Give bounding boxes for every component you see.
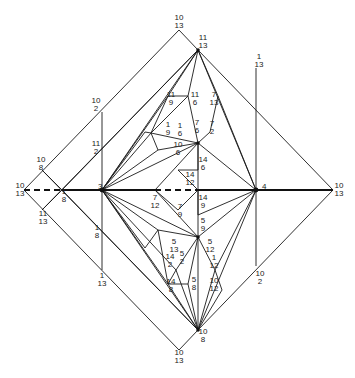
fraction-label: 116 (191, 90, 200, 107)
edge-line (42, 50, 198, 210)
fraction-denominator: 6 (176, 148, 181, 157)
fraction-denominator: 8 (39, 163, 44, 172)
fraction-label: 18 (95, 223, 100, 240)
fraction-label: 52 (180, 249, 185, 266)
fraction-label: 102 (256, 269, 265, 286)
fraction-label: 1412 (186, 170, 195, 187)
junction-dot (196, 141, 200, 145)
hub-node-4 (254, 188, 259, 193)
fraction-denominator: 8 (62, 195, 67, 204)
fraction-denominator: 6 (193, 98, 198, 107)
fraction-label: 1113 (199, 33, 208, 50)
hub-node-label: 3 (98, 182, 103, 191)
fraction-denominator: 13 (255, 60, 264, 69)
fraction-label: 59 (201, 216, 206, 233)
fraction-label: 1113 (39, 209, 48, 226)
fraction-denominator: 8 (201, 335, 206, 344)
fraction-denominator: 12 (151, 201, 160, 210)
fraction-denominator: 13 (175, 356, 184, 365)
edge-line (24, 30, 179, 190)
fraction-denominator: 2 (94, 104, 99, 113)
fraction-graph-diagram: 34 1013111310211210810131811131811311310… (0, 0, 355, 378)
fraction-denominator: 13 (16, 189, 25, 198)
fraction-denominator: 6 (195, 126, 200, 135)
fraction-denominator: 2 (180, 257, 185, 266)
fraction-label: 113 (255, 52, 264, 69)
fraction-label: 108 (37, 155, 46, 172)
fraction-label: 1013 (16, 181, 25, 198)
junction-dot (196, 235, 200, 239)
fraction-label: 1013 (175, 348, 184, 365)
fraction-denominator: 8 (192, 283, 197, 292)
edge-line (198, 132, 210, 143)
edge-line (102, 190, 145, 248)
fraction-denominator: 13 (175, 21, 184, 30)
edge-line (102, 132, 145, 190)
edge-line (218, 96, 256, 190)
fraction-label: 76 (195, 118, 200, 135)
fraction-label: 112 (92, 139, 101, 156)
fraction-label: 146 (199, 155, 208, 172)
fraction-label: 106 (174, 140, 183, 157)
fraction-label: 102 (92, 96, 101, 113)
fraction-denominator: 9 (166, 128, 171, 137)
fraction-denominator: 2 (210, 127, 215, 136)
fraction-denominator: 9 (169, 98, 174, 107)
fraction-denominator: 13 (199, 41, 208, 50)
edge-line (198, 50, 333, 190)
fraction-label: 119 (167, 90, 176, 107)
edge-line (145, 132, 151, 133)
fraction-denominator: 2 (258, 277, 263, 286)
edge-line (198, 190, 333, 330)
fraction-label: 19 (166, 120, 171, 137)
fraction-denominator: 6 (201, 163, 206, 172)
edge-line (151, 133, 158, 150)
edge-line (179, 30, 198, 50)
edge-line (102, 190, 158, 230)
fraction-label: 512 (206, 237, 215, 254)
edge-line (215, 190, 256, 270)
fraction-label: 18 (62, 187, 67, 204)
fraction-label: 1013 (175, 13, 184, 30)
fraction-denominator: 9 (178, 210, 183, 219)
fraction-denominator: 8 (169, 285, 174, 294)
fraction-label: 1012 (210, 276, 219, 293)
fraction-denominator: 9 (201, 224, 206, 233)
edge-line (198, 143, 256, 190)
fraction-label: 58 (192, 275, 197, 292)
fraction-denominator: 13 (335, 189, 344, 198)
fraction-label: 148 (167, 277, 176, 294)
edge-line (198, 290, 222, 330)
fraction-denominator: 13 (39, 217, 48, 226)
fraction-label: 79 (178, 202, 183, 219)
edge-line (179, 330, 198, 350)
fraction-label: 108 (199, 327, 208, 344)
fraction-denominator: 13 (210, 98, 219, 107)
fraction-label: 16 (178, 121, 183, 138)
hub-node-label: 4 (262, 182, 267, 191)
fraction-denominator: 2 (168, 260, 173, 269)
fraction-label: 712 (151, 193, 160, 210)
fraction-label: 142 (166, 252, 175, 269)
fraction-label: 1013 (335, 181, 344, 198)
fraction-label: 112 (210, 253, 219, 270)
fraction-denominator: 9 (201, 201, 206, 210)
edge-line (102, 150, 158, 190)
fraction-denominator: 6 (178, 129, 183, 138)
edge-line (24, 190, 179, 350)
edge-line (102, 143, 198, 190)
fraction-denominator: 2 (94, 147, 99, 156)
fraction-label: 149 (199, 193, 208, 210)
edge-line (102, 190, 198, 237)
fraction-denominator: 8 (95, 231, 100, 240)
fraction-denominator: 12 (210, 261, 219, 270)
fraction-label: 713 (210, 90, 219, 107)
fraction-denominator: 12 (210, 284, 219, 293)
fraction-label: 113 (98, 271, 107, 288)
fraction-label: 72 (210, 119, 215, 136)
fraction-denominator: 13 (98, 279, 107, 288)
fraction-denominator: 12 (186, 178, 195, 187)
